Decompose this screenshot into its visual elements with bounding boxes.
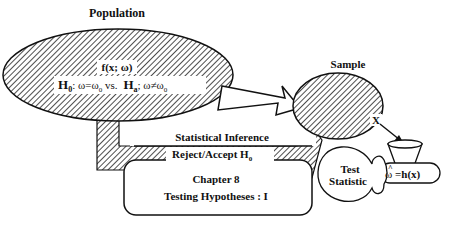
chapter-box: [124, 160, 312, 215]
chapter-title: Testing Hypotheses : I: [164, 190, 268, 202]
chapter-number: Chapter 8: [192, 173, 240, 185]
test-statistic-line2: Statistic: [329, 175, 367, 187]
population-function: f(x; ω): [102, 61, 133, 74]
population-ellipse: [3, 29, 233, 121]
statistical-inference-label: Statistical Inference: [175, 131, 269, 143]
population-title: Population: [89, 6, 145, 20]
estimator-label: ω =h(x): [385, 168, 421, 181]
inference-diagram: Population f(x; ω) H0: ω=ω0 vs.Ha; ω≠ω0 …: [0, 0, 452, 228]
sample-title: Sample: [331, 58, 366, 70]
test-statistic-line1: Test: [340, 163, 359, 175]
sample-ellipse: [293, 73, 383, 139]
sample-x-label: X: [372, 114, 380, 126]
population-to-sample-arrow: [218, 86, 300, 115]
